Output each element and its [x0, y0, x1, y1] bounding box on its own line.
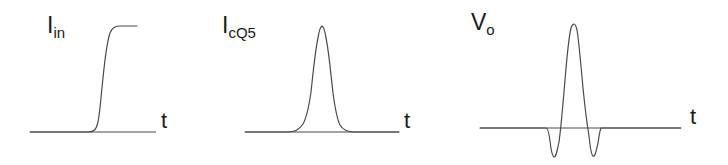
signal-label-icq5: IcQ5 — [222, 14, 256, 37]
waveform-figure: Iin t IcQ5 t Vo t — [0, 0, 728, 165]
panel-vo: Vo t — [465, 0, 728, 165]
signal-subscript-vo: o — [486, 21, 494, 38]
waveform-plot-vo — [465, 0, 728, 165]
signal-label-vo: Vo — [471, 11, 495, 34]
time-axis-label-vo: t — [690, 106, 696, 128]
panel-icq5: IcQ5 t — [215, 0, 465, 165]
signal-subscript-icq5: cQ5 — [228, 24, 256, 41]
signal-subscript-iin: in — [53, 24, 65, 41]
signal-symbol-vo: V — [471, 9, 486, 35]
waveform-trace-iin — [30, 26, 137, 132]
waveform-trace-vo — [480, 24, 681, 157]
waveform-plot-iin — [0, 0, 210, 165]
panel-iin: Iin t — [0, 0, 210, 165]
signal-label-iin: Iin — [47, 14, 65, 37]
time-axis-label-icq5: t — [404, 110, 410, 132]
time-axis-label-iin: t — [161, 110, 167, 132]
waveform-trace-icq5 — [245, 26, 399, 132]
